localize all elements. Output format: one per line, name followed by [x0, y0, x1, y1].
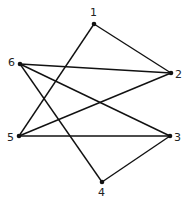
node-3	[168, 134, 173, 139]
node-label-1: 1	[90, 6, 97, 19]
node-1	[92, 22, 97, 27]
edge-1-2	[94, 24, 171, 73]
node-label-4: 4	[98, 186, 105, 199]
node-label-5: 5	[7, 131, 14, 144]
graph-diagram: 123456	[0, 0, 189, 206]
edge-3-4	[102, 136, 170, 182]
node-label-6: 6	[8, 56, 15, 69]
edge-6-2	[20, 64, 171, 73]
edge-1-5	[19, 24, 94, 136]
node-label-2: 2	[175, 68, 182, 81]
node-label-3: 3	[174, 131, 181, 144]
node-4	[100, 180, 105, 185]
node-2	[169, 71, 174, 76]
edge-6-4	[20, 64, 102, 182]
edge-5-2	[19, 73, 171, 136]
node-5	[17, 134, 22, 139]
edges	[19, 24, 171, 182]
node-6	[18, 62, 23, 67]
